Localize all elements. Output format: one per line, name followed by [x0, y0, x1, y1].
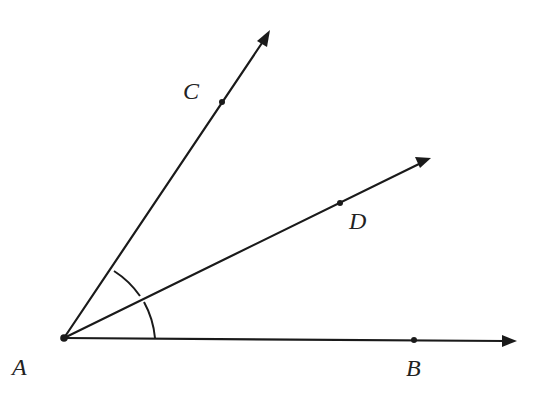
angle-cad-arc [114, 271, 140, 296]
point-d [337, 200, 343, 206]
point-a [60, 334, 68, 342]
arrowhead-icon [415, 157, 431, 168]
ray-ab-line [64, 338, 505, 341]
angle-bisector-diagram: A C D B [0, 0, 546, 397]
point-b [411, 337, 417, 343]
ray-ad [64, 157, 431, 338]
label-b: B [406, 355, 421, 381]
label-d: D [348, 208, 366, 234]
ray-ad-line [64, 163, 421, 338]
label-c: C [183, 78, 200, 104]
ray-ac-line [64, 40, 264, 338]
angle-dab-arc [144, 302, 155, 338]
ray-ac [64, 30, 270, 338]
point-c [219, 99, 225, 105]
label-a: A [10, 354, 27, 380]
arrowhead-icon [257, 30, 270, 47]
ray-ab [64, 335, 517, 347]
arrowhead-icon [502, 335, 517, 347]
